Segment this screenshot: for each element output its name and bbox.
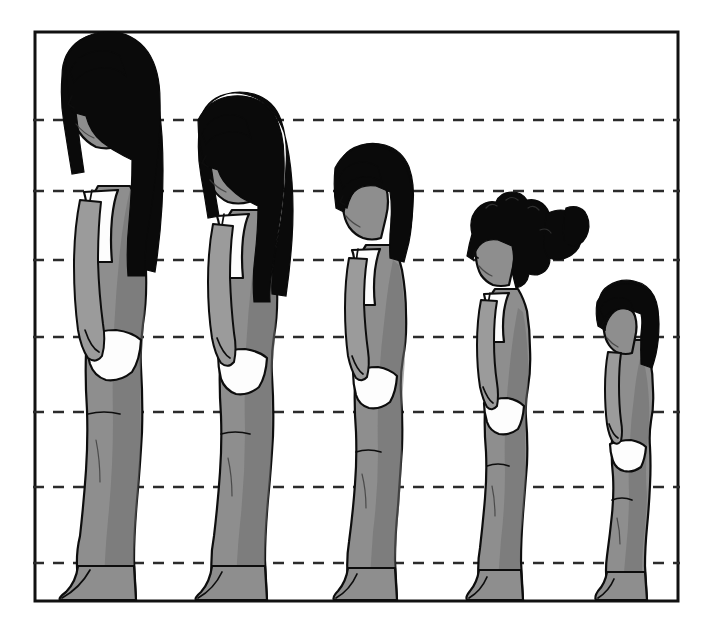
growth-stages-illustration [0, 0, 706, 639]
diagram-stage [0, 0, 706, 639]
